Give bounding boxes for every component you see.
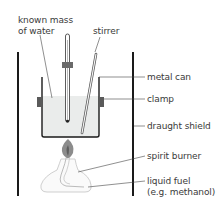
label-draught-shield: draught shield (147, 121, 211, 131)
label-clamp: clamp (147, 94, 174, 104)
leader-liquid-fuel (88, 181, 145, 187)
thermometer-clamp (62, 62, 73, 68)
water (42, 96, 99, 137)
label-known-mass-line1: known mass (18, 15, 73, 25)
clamp-left (37, 97, 42, 107)
leader-spirit-burner (78, 156, 145, 172)
label-liquid-fuel-line2: (e.g. methanol) (147, 187, 215, 197)
clamp-right (99, 97, 104, 107)
label-stirrer: stirrer (93, 26, 119, 36)
thermometer-bulb (66, 119, 69, 122)
label-liquid-fuel-line1: liquid fuel (147, 176, 190, 186)
label-spirit-burner: spirit burner (147, 151, 201, 161)
label-metal-can: metal can (147, 72, 191, 82)
leader-stirrer (95, 37, 100, 52)
label-known-mass-line2: of water (18, 26, 54, 36)
